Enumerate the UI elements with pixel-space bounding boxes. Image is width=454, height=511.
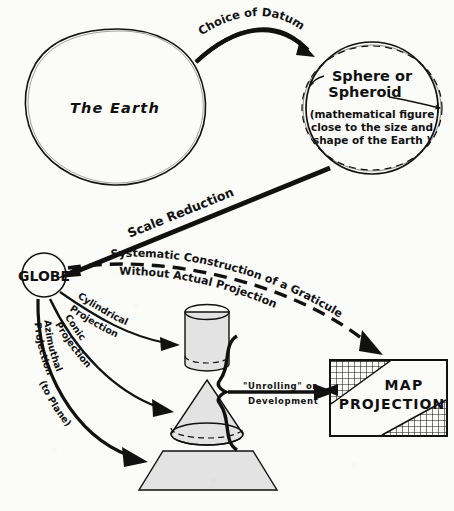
- choice-of-datum-label: Choice of Datum: [195, 5, 307, 38]
- shape-cone: [171, 380, 243, 445]
- map-projection-line2: PROJECTION: [339, 396, 445, 412]
- unrolling-label-line1: "Unrolling" or: [243, 381, 317, 391]
- spheroid-note-line3: shape of the Earth ): [313, 134, 431, 146]
- diagram-canvas: The Earth Sphere or Spheroid (mathematic…: [0, 0, 454, 511]
- earth-label-text: The Earth: [70, 100, 160, 116]
- shape-cylinder: [185, 305, 229, 372]
- spheroid-title-line2: Spheroid: [328, 84, 401, 100]
- map-projection-line1: MAP: [385, 377, 424, 393]
- unrolling-label-line2: Development: [248, 396, 318, 406]
- diagram-svg: The Earth Sphere or Spheroid (mathematic…: [0, 0, 454, 511]
- spheroid-title-line1: Sphere or: [332, 68, 413, 84]
- shape-plane: [139, 451, 277, 490]
- spheroid-note-line2: close to the size and: [311, 121, 433, 133]
- spheroid-note-line1: (mathematical figure: [310, 108, 435, 120]
